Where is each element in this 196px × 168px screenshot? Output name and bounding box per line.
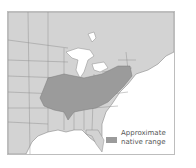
- legend-swatch: [106, 137, 117, 143]
- map-legend: Approximate native range: [106, 129, 172, 151]
- legend-label-line1: Approximate: [121, 129, 166, 137]
- legend-label-line2: native range: [121, 138, 165, 146]
- map-frame: Approximate native range: [7, 11, 175, 155]
